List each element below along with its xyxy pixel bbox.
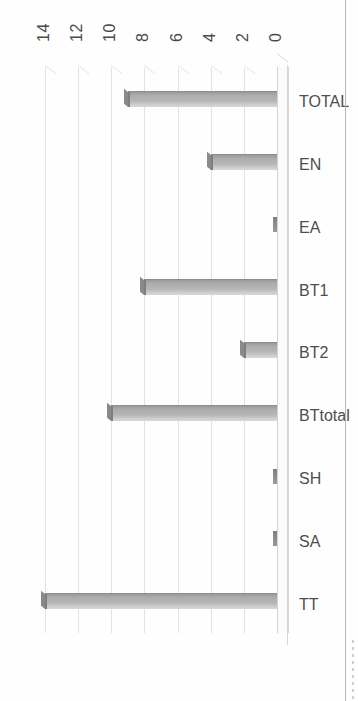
bar-top-cap [111,406,113,421]
bar-top-cap [144,280,146,295]
bar-top-face [41,591,45,609]
bar-ea[interactable] [273,217,277,232]
value-axis-tick-label: 10 [101,0,119,42]
plot-area: 02468101214 TTSASHBTtotalBT2BT1EAENTOTAL [7,0,352,701]
bar-top-face [140,277,144,295]
gridline-depth-tail [45,52,56,74]
category-label-bt1: BT1 [299,282,328,300]
value-axis-tick-label: 12 [68,0,86,42]
value-axis-tick-label: 2 [233,0,251,42]
category-label-text: TOTAL [299,93,349,111]
category-label-sa: SA [299,533,320,551]
page-edge-line [345,0,346,701]
gridline-depth-tail [78,52,89,74]
category-label-text: SA [299,533,320,551]
bar-bttotal[interactable] [111,405,277,421]
bar-bt2[interactable] [243,342,276,358]
category-label-text: BT2 [299,345,328,363]
bar-top-face [107,402,111,420]
category-label-text: SH [299,470,321,488]
gridline-12 [78,68,79,633]
category-label-tt: TT [299,596,319,614]
value-axis-tick-label: 0 [267,0,285,42]
bar-top-face [123,89,127,107]
value-axis-tick-label: 14 [35,0,53,42]
bar-en[interactable] [210,154,276,170]
gridline-8 [144,68,145,633]
bar-top-face [239,340,243,358]
scanned-page: 02468101214 TTSASHBTtotalBT2BT1EAENTOTAL [0,0,358,701]
category-label-en: EN [299,156,321,174]
gridline-depth-tail [243,52,254,74]
gridline-depth-tail [210,52,221,74]
category-label-bttotal: BTtotal [299,407,350,425]
category-label-text: TT [299,596,319,614]
bar-sh[interactable] [273,469,277,484]
chart-floor-front-edge [287,65,288,645]
category-label-text: EA [299,219,320,237]
gridline-6 [177,68,178,633]
gridline-10 [111,68,112,633]
category-label-text: BT1 [299,282,328,300]
gridline-14 [45,68,46,633]
value-axis-tick-label: 4 [200,0,218,42]
bar-top-face [206,151,210,169]
bar-tt[interactable] [45,593,277,609]
gridline-depth-tail [177,52,188,74]
category-label-bt2: BT2 [299,345,328,363]
category-label-total: TOTAL [299,93,349,111]
gridline-depth-tail [144,52,155,74]
bar-total[interactable] [127,91,276,107]
bar-sa[interactable] [273,531,277,546]
category-label-ea: EA [299,219,320,237]
category-label-sh: SH [299,470,321,488]
bar-bt1[interactable] [144,279,277,295]
category-label-text: BTtotal [299,407,350,425]
page-edge-dotted-artifact [352,640,354,701]
rotated-chart-container: 02468101214 TTSASHBTtotalBT2BT1EAENTOTAL [7,0,352,701]
value-axis-tick-label: 6 [167,0,185,42]
value-axis-tick-label: 8 [134,0,152,42]
category-label-text: EN [299,156,321,174]
gridline-depth-tail [111,52,122,74]
